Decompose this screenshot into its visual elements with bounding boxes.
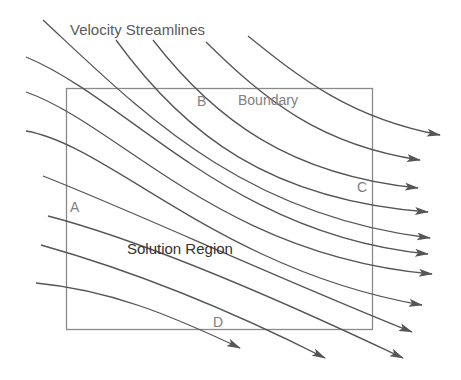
corner-label-a: A [70,199,80,215]
corner-label-b: B [197,93,206,109]
streamlines [26,20,440,358]
diagram-title: Velocity Streamlines [70,21,205,38]
streamline-1 [248,36,440,135]
streamline-6 [26,57,428,254]
corner-label-c: C [357,179,367,195]
streamline-10 [48,216,403,358]
streamline-diagram: Velocity Streamlines B Boundary C A Solu… [0,0,461,380]
corner-label-d: D [213,314,223,330]
region-label: Solution Region [127,240,233,257]
boundary-label: Boundary [238,92,298,108]
streamline-8 [26,131,422,305]
